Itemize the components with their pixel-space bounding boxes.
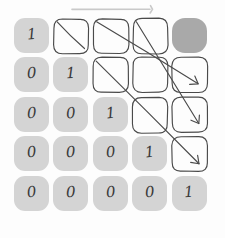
matrix-cell-value: 1: [26, 27, 37, 43]
matrix-cell-r3c2: 0: [53, 97, 88, 132]
matrix-cell-r1c2: [53, 18, 88, 53]
matrix-cell-r2c2: 1: [53, 57, 88, 92]
matrix-cell-r1c5: [172, 18, 207, 53]
cell-outline-sketch: [129, 15, 171, 57]
matrix-cell-value: 1: [105, 105, 116, 121]
matrix-cell-r5c1: 0: [14, 176, 49, 211]
matrix-cell-value: 0: [66, 145, 77, 161]
matrix-cell-value: 0: [26, 145, 37, 161]
cell-outline-sketch: [129, 94, 171, 136]
matrix-cell-r1c3: [93, 18, 128, 53]
cell-outline-sketch: [169, 54, 211, 96]
matrix-grid: 101001000100001: [14, 18, 211, 215]
matrix-cell-r2c1: 0: [14, 57, 49, 92]
matrix-cell-r2c4: [132, 57, 167, 92]
matrix-cell-value: 0: [105, 145, 116, 161]
matrix-cell-r4c2: 0: [53, 136, 88, 171]
matrix-cell-r2c3: [93, 57, 128, 92]
horizontal-sweep-arrow: [0, 0, 225, 20]
matrix-cell-r3c3: 1: [93, 97, 128, 132]
matrix-cell-r1c1: 1: [14, 18, 49, 53]
matrix-cell-r1c4: [132, 18, 167, 53]
matrix-cell-value: 0: [26, 66, 37, 82]
matrix-cell-r5c2: 0: [53, 176, 88, 211]
matrix-cell-r3c5: [172, 97, 207, 132]
matrix-cell-r5c3: 0: [93, 176, 128, 211]
matrix-cell-value: 1: [184, 184, 195, 200]
matrix-cell-r4c4: 1: [132, 136, 167, 171]
matrix-cell-value: 0: [26, 184, 37, 200]
matrix-cell-r4c5: [172, 136, 207, 171]
matrix-cell-value: 0: [65, 105, 76, 121]
matrix-cell-r5c5: 1: [172, 176, 207, 211]
cell-outline-sketch: [169, 133, 211, 175]
matrix-cell-r4c3: 0: [93, 136, 128, 171]
cell-outline-sketch: [129, 54, 171, 96]
figure-canvas: 101001000100001: [0, 0, 225, 238]
matrix-cell-r2c5: [172, 57, 207, 92]
cell-outline-sketch: [169, 94, 211, 136]
matrix-cell-r4c1: 0: [14, 136, 49, 171]
matrix-cell-value: 1: [144, 145, 155, 161]
matrix-cell-value: 1: [66, 66, 76, 81]
matrix-cell-r3c1: 0: [14, 97, 49, 132]
matrix-cell-r3c4: [132, 97, 167, 132]
matrix-cell-r5c4: 0: [132, 176, 167, 211]
matrix-cell-value: 0: [66, 184, 76, 199]
cell-outline-sketch: [90, 54, 132, 96]
matrix-cell-value: 0: [26, 106, 36, 121]
matrix-cell-value: 0: [144, 184, 155, 200]
matrix-cell-value: 0: [105, 184, 116, 200]
cell-outline-sketch: [50, 15, 92, 57]
cell-outline-sketch: [90, 15, 132, 57]
